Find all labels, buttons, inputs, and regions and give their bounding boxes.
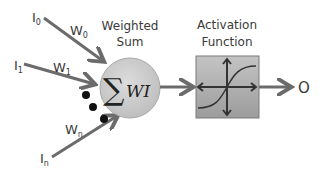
input-n-arrow [52,116,117,157]
sum-title-line2: Sum [117,35,144,49]
input-0-label: I0 [32,10,41,27]
ellipsis-dot [89,103,97,111]
sum-title-line1: Weighted [102,19,159,33]
output-label: O [298,79,310,97]
weight-0-label: W0 [70,23,88,40]
weight-1-label: W1 [53,60,71,77]
activation-title-line1: Activation [197,18,257,32]
input-n-label: In [40,151,49,168]
sigma-symbol: ∑ [103,72,125,107]
ellipsis-dot [100,115,108,123]
sum-formula: WI [126,81,150,101]
weight-n-label: Wn [65,122,83,139]
perceptron-diagram: I0 W0 I1 W1 Wn In Weighted Sum ∑ WI Acti… [0,0,323,180]
ellipsis-dot [82,91,90,99]
input-1-label: I1 [14,58,23,75]
activation-function-box [196,56,259,118]
activation-title-line2: Function [201,35,252,49]
